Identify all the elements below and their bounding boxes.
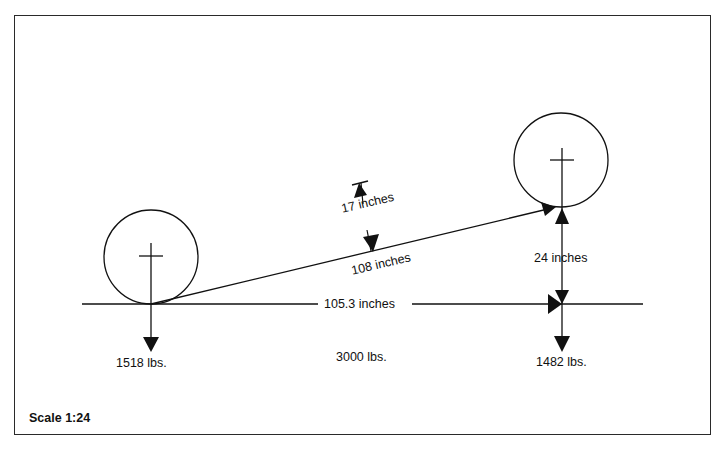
rear-load-arrow-icon	[554, 336, 570, 352]
diagram-drawing	[0, 0, 728, 454]
scale-label: Scale 1:24	[29, 411, 90, 425]
cg-line	[151, 208, 552, 304]
rear-axle-load-label: 1482 lbs.	[536, 355, 587, 369]
cg-offset-tick	[352, 181, 368, 185]
front-axle-load-label: 1518 lbs.	[116, 356, 167, 370]
weight-distribution-diagram: 17 inches 108 inches 24 inches 105.3 inc…	[0, 0, 728, 454]
total-weight-label: 3000 lbs.	[336, 350, 387, 364]
cg-line-arrow-icon	[541, 202, 556, 216]
front-load-arrow-icon	[143, 337, 159, 352]
wheel-height-label: 24 inches	[534, 251, 588, 265]
height-arrow-up-icon	[555, 208, 569, 224]
wheelbase-label: 105.3 inches	[324, 297, 395, 311]
